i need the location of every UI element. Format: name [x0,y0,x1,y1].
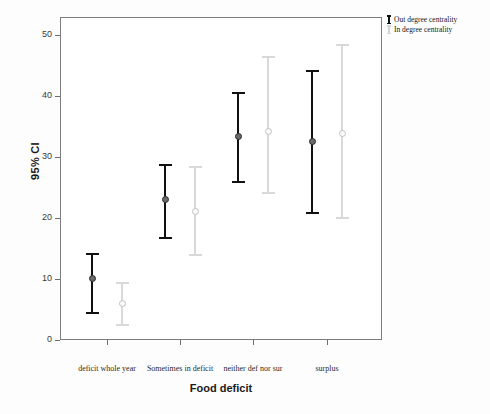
error-bar-lower-cap [159,237,172,239]
error-bar-upper-cap [336,44,349,46]
error-bar-upper-cap [306,70,319,72]
error-bar-lower-cap [189,254,202,256]
error-bar-upper-cap [116,282,129,284]
legend-errorbar-icon [387,15,391,24]
y-axis-tick-label: 50 [42,29,52,39]
error-bar-upper-cap [86,253,99,255]
error-bar [304,70,320,213]
mean-marker [339,130,346,137]
y-axis-tick: 40 [0,96,60,97]
y-axis-title: 95% CI [29,121,41,201]
mean-marker [192,208,199,215]
error-bar [230,92,246,183]
y-axis-tick-label: 20 [42,212,52,222]
error-bar-lower-cap [232,181,245,183]
error-bar-upper-cap [159,164,172,166]
error-bar [84,253,100,313]
y-axis-tick-label: 30 [42,151,52,161]
y-axis-tick: 0 [0,340,60,341]
error-bar [157,164,173,239]
x-axis-tick-mark [107,340,108,345]
x-axis-tick-mark [327,340,328,345]
error-bar [114,282,130,326]
legend-item: Out degree centrality [387,15,487,24]
legend-item-label: Out degree centrality [394,15,457,24]
y-axis-tick-label: 10 [42,273,52,283]
y-axis-tick-label: 40 [42,90,52,100]
mean-marker [162,196,169,203]
error-bar [334,44,350,219]
x-axis-tick-label: neither def nor sur [224,364,283,373]
y-axis-tick-label: 0 [47,334,52,344]
chart-legend: Out degree centralityIn degree centralit… [386,13,488,37]
x-axis-tick-label: deficit whole year [78,364,136,373]
y-axis-tick: 10 [0,279,60,280]
mean-marker [119,300,126,307]
error-bar [260,56,276,193]
error-bar-stem [91,253,93,313]
y-axis-tick: 50 [0,35,60,36]
mean-marker [265,128,272,135]
error-bar [187,166,203,256]
mean-marker [309,138,316,145]
legend-errorbar-icon [387,25,391,34]
chart-screenshot: 95% CI 01020304050 deficit whole yearSom… [0,0,490,414]
mean-marker [89,275,96,282]
error-bar-lower-cap [116,324,129,326]
x-axis-tick-label: Sometimes in deficit [147,364,213,373]
x-axis-tick-label: surplus [315,364,338,373]
y-axis-tick: 30 [0,157,60,158]
legend-item-label: In degree centrality [394,25,452,34]
x-axis-title: Food deficit [60,382,382,394]
x-axis-tick-mark [180,340,181,345]
error-bar-lower-cap [86,312,99,314]
error-bar-stem [267,56,269,193]
y-axis-tick: 20 [0,218,60,219]
mean-marker [235,133,242,140]
error-bar-upper-cap [262,56,275,58]
legend-item: In degree centrality [387,25,487,34]
x-axis-tick-mark [253,340,254,345]
error-bar-lower-cap [306,212,319,214]
error-bar-lower-cap [336,217,349,219]
error-bar-lower-cap [262,192,275,194]
error-bar-upper-cap [189,166,202,168]
y-axis-tick-mark [55,340,60,341]
error-bar-upper-cap [232,92,245,94]
